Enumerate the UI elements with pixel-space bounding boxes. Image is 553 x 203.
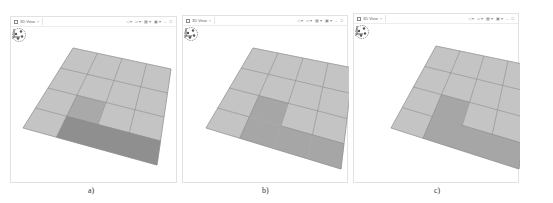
3d-viewport[interactable] bbox=[183, 26, 347, 182]
view-panel-c: 3D View × ◁ ▾ ▱ ▾ ▦ ▾ ▣ ▾ – □ bbox=[353, 13, 519, 183]
tab-label: 3D View bbox=[363, 16, 378, 21]
mesh-display-button[interactable]: ▦ ▾ bbox=[315, 17, 322, 24]
minimize-button[interactable]: – bbox=[335, 17, 337, 24]
close-icon[interactable]: × bbox=[380, 16, 382, 21]
tab-bar: 3D View × ◁ ▾ ▱ ▾ ▦ ▾ ▣ ▾ – □ bbox=[11, 17, 176, 27]
view-icon bbox=[357, 17, 361, 21]
view-toolbar: ◁ ▾ ▱ ▾ ▦ ▾ ▣ ▾ – □ bbox=[126, 18, 172, 25]
maximize-button[interactable]: □ bbox=[341, 17, 343, 24]
view-direction-button[interactable]: ◁ ▾ bbox=[126, 18, 132, 25]
view-direction-button[interactable]: ◁ ▾ bbox=[468, 15, 474, 22]
caption-c: c) bbox=[434, 186, 440, 195]
3d-viewport[interactable] bbox=[354, 24, 518, 182]
caption-a: a) bbox=[88, 186, 94, 195]
view-icon bbox=[14, 20, 18, 24]
display-mode-button[interactable]: ▱ ▾ bbox=[477, 15, 483, 22]
close-icon[interactable]: × bbox=[209, 18, 211, 23]
render-options-button[interactable]: ▣ ▾ bbox=[325, 17, 332, 24]
maximize-button[interactable]: □ bbox=[170, 18, 172, 25]
view-toolbar: ◁ ▾ ▱ ▾ ▦ ▾ ▣ ▾ – □ bbox=[297, 17, 343, 24]
mesh-display-button[interactable]: ▦ ▾ bbox=[144, 18, 151, 25]
render-options-button[interactable]: ▣ ▾ bbox=[496, 15, 503, 22]
3d-viewport[interactable] bbox=[11, 27, 176, 182]
grid-canvas bbox=[354, 24, 520, 184]
navigation-cube-icon[interactable] bbox=[183, 26, 199, 42]
tab-label: 3D View bbox=[192, 18, 207, 23]
maximize-button[interactable]: □ bbox=[512, 15, 514, 22]
close-icon[interactable]: × bbox=[37, 19, 39, 24]
display-mode-button[interactable]: ▱ ▾ bbox=[306, 17, 312, 24]
tab-label: 3D View bbox=[20, 19, 35, 24]
caption-b: b) bbox=[262, 186, 269, 195]
tab-bar: 3D View × ◁ ▾ ▱ ▾ ▦ ▾ ▣ ▾ – □ bbox=[183, 16, 347, 26]
tab-3d-view[interactable]: 3D View × bbox=[14, 18, 43, 25]
view-icon bbox=[186, 19, 190, 23]
grid-canvas bbox=[11, 27, 178, 184]
view-direction-button[interactable]: ◁ ▾ bbox=[297, 17, 303, 24]
tab-bar: 3D View × ◁ ▾ ▱ ▾ ▦ ▾ ▣ ▾ – □ bbox=[354, 14, 518, 24]
view-panel-b: 3D View × ◁ ▾ ▱ ▾ ▦ ▾ ▣ ▾ – □ bbox=[182, 15, 348, 183]
tab-3d-view[interactable]: 3D View × bbox=[357, 15, 386, 22]
navigation-cube-icon[interactable] bbox=[11, 27, 27, 43]
view-panel-a: 3D View × ◁ ▾ ▱ ▾ ▦ ▾ ▣ ▾ – □ bbox=[10, 16, 177, 183]
render-options-button[interactable]: ▣ ▾ bbox=[154, 18, 161, 25]
view-toolbar: ◁ ▾ ▱ ▾ ▦ ▾ ▣ ▾ – □ bbox=[468, 15, 514, 22]
minimize-button[interactable]: – bbox=[506, 15, 508, 22]
navigation-cube-icon[interactable] bbox=[354, 24, 370, 40]
mesh-display-button[interactable]: ▦ ▾ bbox=[486, 15, 493, 22]
display-mode-button[interactable]: ▱ ▾ bbox=[135, 18, 141, 25]
grid-canvas bbox=[183, 26, 349, 184]
minimize-button[interactable]: – bbox=[164, 18, 166, 25]
tab-3d-view[interactable]: 3D View × bbox=[186, 17, 215, 24]
